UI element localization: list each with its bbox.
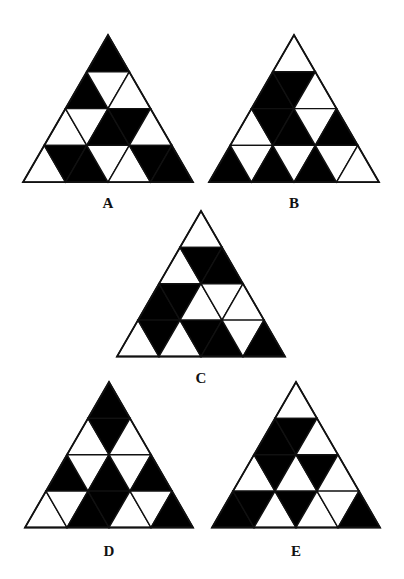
triangle-figure-e — [0, 0, 404, 579]
triangle-cell — [275, 382, 317, 418]
figure-label-e: E — [281, 543, 311, 560]
triangle-grid — [0, 0, 404, 579]
